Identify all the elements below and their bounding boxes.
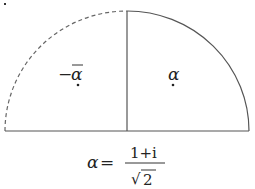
right-arc-solid <box>127 11 249 131</box>
formula-lhs: α <box>87 152 99 172</box>
point-alpha <box>172 84 175 87</box>
right-region-label: α <box>168 64 180 86</box>
formula-equals: = <box>100 152 114 172</box>
sqrt-sign: √ <box>131 170 141 188</box>
formula-denominator: 2 <box>143 171 153 189</box>
alpha-symbol: α <box>168 64 180 84</box>
point-neg-alpha-bar <box>77 84 80 87</box>
half-disk-diagram: − α α α = 1+i √ 2 <box>0 0 255 189</box>
formula-numerator: 1+i <box>130 144 157 162</box>
alpha-bar-symbol: α <box>71 64 83 84</box>
formula: α = 1+i √ 2 <box>87 144 165 189</box>
left-region-label: − α <box>58 64 83 86</box>
corner-dot <box>4 3 6 5</box>
